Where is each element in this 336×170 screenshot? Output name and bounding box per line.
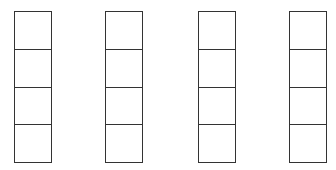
cell (15, 50, 51, 88)
cell (15, 12, 51, 50)
cell (199, 88, 235, 126)
cell (106, 88, 142, 126)
column-1 (14, 11, 52, 163)
column-4 (289, 11, 327, 163)
cell (106, 125, 142, 162)
cell (199, 125, 235, 162)
cell (199, 12, 235, 50)
cell (290, 125, 326, 162)
column-2 (105, 11, 143, 163)
cell (290, 50, 326, 88)
cell (199, 50, 235, 88)
cell (290, 88, 326, 126)
column-3 (198, 11, 236, 163)
cell (290, 12, 326, 50)
cell (15, 88, 51, 126)
cell (106, 12, 142, 50)
cell (106, 50, 142, 88)
cell (15, 125, 51, 162)
